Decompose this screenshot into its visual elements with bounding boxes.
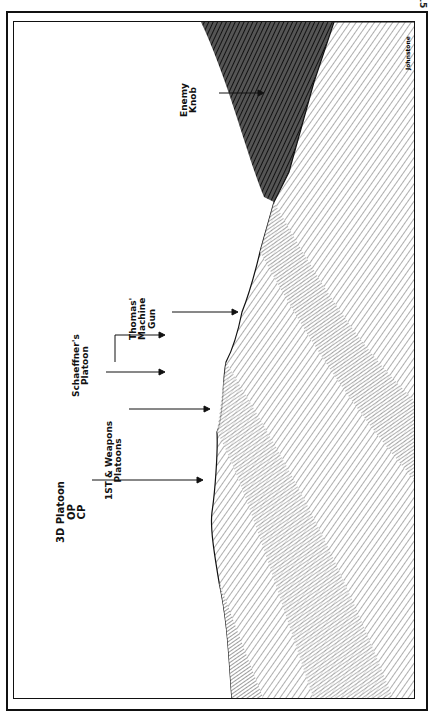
page-number: 15: [419, 0, 429, 8]
terrain-sketch: Johnstone EnemyKnob Thomas'MachineGun Sc…: [13, 21, 415, 699]
label-enemy-knob: EnemyKnob: [180, 83, 199, 117]
label-schaeffner-platoon: Schaeffner'sPlatoon: [72, 334, 91, 397]
label-first-weapons-platoons: 1ST & WeaponsPlatoons: [105, 421, 124, 500]
label-thomas-machine-gun: Thomas'MachineGun: [129, 298, 157, 340]
label-third-platoon-op-cp: 3D PlatoonOPCP: [56, 481, 88, 543]
artist-signature: Johnstone: [404, 36, 412, 71]
